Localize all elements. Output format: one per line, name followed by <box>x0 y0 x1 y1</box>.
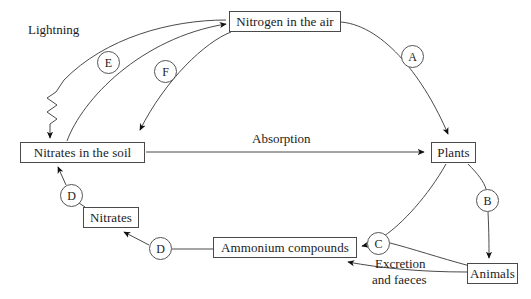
edge-d-to-soil <box>58 167 66 185</box>
lightning-zigzag-icon <box>47 92 57 124</box>
label-excretion: Excretion <box>375 256 426 272</box>
label-faeces: and faeces <box>372 272 427 288</box>
circle-stage-d-ammonium-label: D <box>156 243 165 255</box>
edge-lightning-curve <box>56 20 226 92</box>
node-nitrates-in-the-soil-label: Nitrates in the soil <box>34 146 132 159</box>
label-absorption: Absorption <box>252 131 311 146</box>
node-animals[interactable]: Animals <box>467 263 518 284</box>
circle-stage-c-label: C <box>374 238 382 250</box>
circle-stage-c[interactable]: C <box>367 232 390 255</box>
node-plants-label: Plants <box>437 146 469 159</box>
edge-plants-to-c <box>384 164 446 236</box>
nitrogen-cycle-diagram: Nitrogen in the air Nitrates in the soil… <box>0 0 531 299</box>
circle-stage-d-soil-label: D <box>67 190 76 202</box>
circle-stage-d-ammonium[interactable]: D <box>149 237 172 260</box>
edge-e-soil-to-air <box>67 24 226 141</box>
node-nitrogen-in-the-air[interactable]: Nitrogen in the air <box>229 11 341 32</box>
circle-stage-e-label: E <box>105 57 112 69</box>
circle-stage-d-soil[interactable]: D <box>60 184 83 207</box>
edge-f-air-to-soil <box>140 32 231 130</box>
edge-d-to-nitrates <box>124 232 149 245</box>
circle-stage-f-label: F <box>162 66 169 78</box>
label-lightning: Lightning <box>28 22 79 37</box>
circle-stage-a-label: A <box>408 51 417 63</box>
circle-stage-b[interactable]: B <box>476 189 499 212</box>
node-nitrates-in-the-soil[interactable]: Nitrates in the soil <box>20 142 145 163</box>
node-plants[interactable]: Plants <box>431 142 476 163</box>
circle-stage-f[interactable]: F <box>154 60 177 83</box>
node-ammonium-compounds-label: Ammonium compounds <box>221 241 349 254</box>
circle-stage-e[interactable]: E <box>97 51 120 74</box>
edge-a-air-to-plants <box>341 22 448 134</box>
circle-stage-a[interactable]: A <box>401 45 424 68</box>
node-nitrogen-in-the-air-label: Nitrogen in the air <box>236 15 334 28</box>
circle-stage-b-label: B <box>483 195 491 207</box>
node-animals-label: Animals <box>470 267 515 280</box>
node-nitrates-label: Nitrates <box>90 211 132 224</box>
edge-b-plants-to-animals <box>468 164 486 189</box>
node-nitrates[interactable]: Nitrates <box>83 207 139 228</box>
node-ammonium-compounds[interactable]: Ammonium compounds <box>213 237 357 258</box>
edge-b-to-animals <box>488 212 489 258</box>
